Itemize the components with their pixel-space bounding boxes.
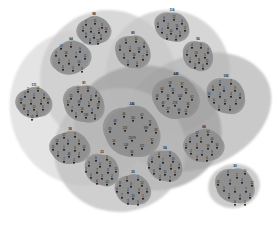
cluster-point-dot[interactable] [85, 117, 87, 119]
cluster-point-dot[interactable] [148, 167, 150, 169]
cluster-point-dot[interactable] [244, 173, 246, 175]
cluster-point-dot[interactable] [106, 184, 108, 186]
cluster-point-dot[interactable] [239, 97, 241, 99]
cluster-point-dot[interactable] [174, 174, 176, 176]
cluster-point-dot[interactable] [163, 20, 165, 22]
cluster-point-dot[interactable] [143, 46, 145, 48]
cluster-point-dot[interactable] [244, 204, 246, 206]
cluster-point-dot[interactable] [115, 171, 117, 173]
cluster-point-dot[interactable] [207, 52, 209, 54]
cluster-point-dot[interactable] [96, 183, 98, 185]
cluster-point-dot[interactable] [36, 115, 38, 117]
cluster-point-dot[interactable] [111, 178, 113, 180]
cluster-point-dot[interactable] [151, 142, 153, 144]
cluster-point-dot[interactable] [142, 198, 144, 200]
cluster-point-dot[interactable] [81, 111, 83, 113]
cluster-point-dot[interactable] [196, 147, 198, 149]
cluster-point-dot[interactable] [227, 174, 229, 176]
cluster-point-dot[interactable] [57, 155, 59, 157]
cluster-point-dot[interactable] [162, 162, 164, 164]
cluster-point-dot[interactable] [138, 192, 140, 194]
cluster-point-dot[interactable] [93, 37, 95, 39]
cluster-point-dot[interactable] [98, 32, 100, 34]
cluster-point-dot[interactable] [60, 48, 62, 50]
cluster-point-dot[interactable] [236, 177, 238, 179]
cluster-point-dot[interactable] [24, 96, 26, 98]
cluster-point-dot[interactable] [78, 64, 80, 66]
cluster-point-dot[interactable] [211, 141, 213, 143]
cluster-point-dot[interactable] [138, 51, 140, 53]
cluster-point-dot[interactable] [184, 30, 186, 32]
cluster-point-dot[interactable] [189, 61, 191, 63]
cluster-point-dot[interactable] [40, 103, 42, 105]
cluster-point-dot[interactable] [80, 98, 82, 100]
cluster-point-dot[interactable] [123, 57, 125, 59]
cluster-point-dot[interactable] [141, 148, 143, 150]
cluster-point-dot[interactable] [47, 102, 49, 104]
cluster-point-dot[interactable] [198, 62, 200, 64]
cluster-point-dot[interactable] [145, 130, 147, 132]
cluster-point-dot[interactable] [74, 136, 76, 138]
cluster-point-dot[interactable] [172, 92, 174, 94]
cluster-point-dot[interactable] [79, 51, 81, 53]
cluster-point-dot[interactable] [166, 38, 168, 40]
cluster-point-dot[interactable] [127, 64, 129, 66]
cluster-point-dot[interactable] [94, 23, 96, 25]
cluster-point-dot[interactable] [33, 109, 35, 111]
cluster-point-dot[interactable] [169, 85, 171, 87]
cluster-point-dot[interactable] [159, 179, 161, 181]
cluster-point-dot[interactable] [167, 98, 169, 100]
cluster-point-dot[interactable] [161, 32, 163, 34]
cluster-point-dot[interactable] [98, 101, 100, 103]
cluster-point-dot[interactable] [201, 154, 203, 156]
cluster-point-dot[interactable] [170, 33, 172, 35]
cluster-point-dot[interactable] [85, 171, 87, 173]
cluster-point-dot[interactable] [178, 167, 180, 169]
cluster-point-dot[interactable] [131, 140, 133, 142]
cluster-point-dot[interactable] [245, 191, 247, 193]
cluster-point-dot[interactable] [159, 168, 161, 170]
cluster-point-dot[interactable] [31, 119, 33, 121]
cluster-point-dot[interactable] [251, 185, 253, 187]
cluster-point-dot[interactable] [211, 154, 213, 156]
cluster-point-dot[interactable] [133, 57, 135, 59]
cluster-point-dot[interactable] [132, 120, 134, 122]
cluster-point-dot[interactable] [42, 109, 44, 111]
cluster-point-dot[interactable] [100, 38, 102, 40]
cluster-point-dot[interactable] [155, 132, 157, 134]
cluster-point-dot[interactable] [216, 147, 218, 149]
cluster-point-dot[interactable] [63, 161, 65, 163]
cluster-point-dot[interactable] [141, 185, 143, 187]
cluster-point-dot[interactable] [137, 204, 139, 206]
cluster-point-dot[interactable] [202, 68, 204, 70]
cluster-point-dot[interactable] [68, 156, 70, 158]
cluster-point-dot[interactable] [219, 96, 221, 98]
cluster-point-dot[interactable] [157, 26, 159, 28]
cluster-point-dot[interactable] [191, 47, 193, 49]
cluster-point-dot[interactable] [187, 106, 189, 108]
cluster-point-dot[interactable] [167, 111, 169, 113]
cluster-point-dot[interactable] [189, 141, 191, 143]
cluster-point-dot[interactable] [174, 105, 176, 107]
cluster-point-dot[interactable] [169, 155, 171, 157]
cluster-point-dot[interactable] [116, 191, 118, 193]
cluster-point-dot[interactable] [196, 159, 198, 161]
cluster-point-dot[interactable] [55, 55, 57, 57]
cluster-point-dot[interactable] [162, 105, 164, 107]
cluster-point-dot[interactable] [219, 84, 221, 86]
cluster-point-dot[interactable] [218, 109, 220, 111]
cluster-point-dot[interactable] [229, 109, 231, 111]
cluster-point-dot[interactable] [234, 90, 236, 92]
cluster-point-dot[interactable] [249, 197, 251, 199]
cluster-point-dot[interactable] [126, 180, 128, 182]
cluster-point-dot[interactable] [33, 97, 35, 99]
cluster-point-dot[interactable] [63, 137, 65, 139]
cluster-point-dot[interactable] [56, 143, 58, 145]
cluster-point-dot[interactable] [142, 59, 144, 61]
cluster-point-dot[interactable] [30, 103, 32, 105]
cluster-point-dot[interactable] [191, 99, 193, 101]
cluster-point-dot[interactable] [96, 172, 98, 174]
cluster-point-dot[interactable] [77, 91, 79, 93]
cluster-point-dot[interactable] [181, 23, 183, 25]
cluster-point-dot[interactable] [131, 154, 133, 156]
